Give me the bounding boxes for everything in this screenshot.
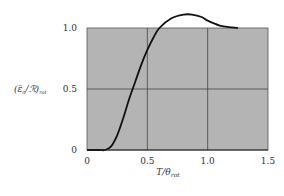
- x-tick-labels: 00.51.01.5: [84, 156, 275, 166]
- x-tick-label: 1.5: [261, 156, 276, 166]
- y-axis-label: (ε̄n/ℛ)rot: [14, 84, 48, 95]
- x-tick-label: 0.5: [140, 156, 155, 166]
- y-tick-label: 0.5: [63, 84, 78, 94]
- x-axis-label: T/θrot: [156, 167, 180, 178]
- y-tick-label: 1.0: [63, 23, 78, 33]
- y-tick-label: 0: [71, 145, 77, 155]
- chart: 00.51.01.5 00.51.0 T/θrot (ε̄n/ℛ)rot: [0, 0, 284, 196]
- x-tick-label: 0: [84, 156, 90, 166]
- y-tick-labels: 00.51.0: [63, 23, 78, 155]
- plot-area: [87, 14, 268, 150]
- x-tick-label: 1.0: [201, 156, 216, 166]
